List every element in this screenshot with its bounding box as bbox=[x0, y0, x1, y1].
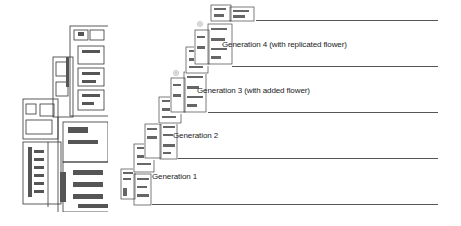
generation-2-label: Generation 2 bbox=[173, 131, 218, 140]
generation-1-circuit bbox=[120, 168, 152, 206]
generation-4-label: Generation 4 (with replicated flower) bbox=[222, 40, 347, 49]
generation-line-top bbox=[256, 20, 438, 21]
generation-1-label: Generation 1 bbox=[152, 172, 197, 181]
generation-2-circuit bbox=[144, 120, 178, 160]
generation-line-4 bbox=[232, 66, 438, 67]
generation-line-1 bbox=[152, 204, 438, 205]
generation-3-label: Generation 3 (with added flower) bbox=[197, 86, 310, 95]
top-circuit bbox=[210, 3, 256, 23]
generation-line-3 bbox=[207, 112, 438, 113]
generation-line-2 bbox=[178, 158, 438, 159]
circuit-layout-drawing bbox=[18, 22, 108, 212]
full-circuit-layout bbox=[18, 22, 108, 212]
